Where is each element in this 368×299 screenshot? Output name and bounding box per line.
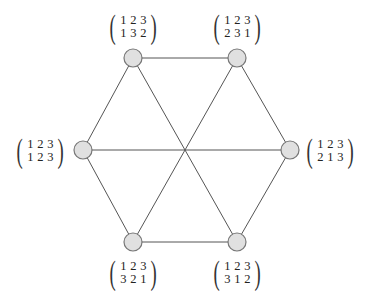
left-paren: ( xyxy=(110,258,116,288)
edge-n2-n0 xyxy=(83,58,133,150)
right-paren: ) xyxy=(151,258,157,288)
permutation-entry: 1 xyxy=(138,273,148,286)
permutation-label: (123312) xyxy=(211,258,264,288)
permutation-matrix: 123123 xyxy=(25,138,55,164)
permutation-entry: 1 xyxy=(25,151,35,164)
permutation-entry: 3 xyxy=(335,151,345,164)
permutation-entry: 3 xyxy=(128,27,138,40)
graph-node xyxy=(281,141,299,159)
permutation-entry: 3 xyxy=(232,27,242,40)
graph-node xyxy=(228,233,246,251)
permutation-label: (123213) xyxy=(304,136,357,166)
edge-n3-n5 xyxy=(237,150,290,242)
graph-node xyxy=(74,141,92,159)
permutation-entry: 3 xyxy=(118,273,128,286)
permutation-matrix: 123321 xyxy=(118,260,148,286)
permutation-entry: 1 xyxy=(118,27,128,40)
permutation-entry: 1 xyxy=(325,151,335,164)
left-paren: ( xyxy=(214,258,220,288)
permutation-label: (123321) xyxy=(107,258,160,288)
permutation-entry: 2 xyxy=(35,151,45,164)
right-paren: ) xyxy=(348,136,354,166)
edge-n4-n2 xyxy=(83,150,133,242)
graph-node xyxy=(228,49,246,67)
right-paren: ) xyxy=(151,12,157,42)
permutation-entry: 2 xyxy=(242,273,252,286)
permutation-entry: 2 xyxy=(138,27,148,40)
permutation-matrix: 123213 xyxy=(315,138,345,164)
permutation-matrix: 123312 xyxy=(222,260,252,286)
permutation-matrix: 123231 xyxy=(222,14,252,40)
left-paren: ( xyxy=(110,12,116,42)
permutation-entry: 3 xyxy=(222,273,232,286)
permutation-entry: 1 xyxy=(242,27,252,40)
permutation-entry: 1 xyxy=(232,273,242,286)
permutation-label: (123132) xyxy=(107,12,160,42)
right-paren: ) xyxy=(255,258,261,288)
permutation-entry: 2 xyxy=(222,27,232,40)
right-paren: ) xyxy=(58,136,64,166)
permutation-entry: 2 xyxy=(128,273,138,286)
graph-node xyxy=(124,49,142,67)
right-paren: ) xyxy=(255,12,261,42)
graph-node xyxy=(124,233,142,251)
left-paren: ( xyxy=(17,136,23,166)
permutation-label: (123231) xyxy=(211,12,264,42)
left-paren: ( xyxy=(214,12,220,42)
permutation-entry: 3 xyxy=(45,151,55,164)
edge-n1-n3 xyxy=(237,58,290,150)
permutation-entry: 2 xyxy=(315,151,325,164)
permutation-matrix: 123132 xyxy=(118,14,148,40)
permutation-label: (123123) xyxy=(14,136,67,166)
left-paren: ( xyxy=(307,136,313,166)
